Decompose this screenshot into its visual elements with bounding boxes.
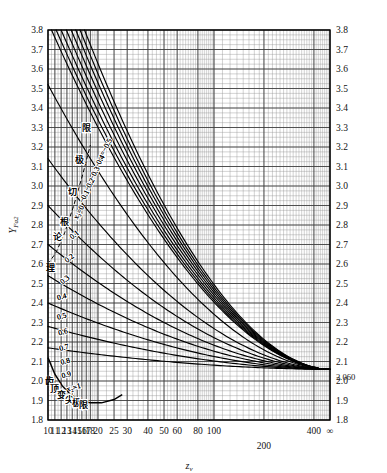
curve-label-x2-14: 0.9	[61, 369, 73, 380]
y-tick-label-left-11: 2.9	[31, 201, 43, 211]
y-tick-label-left-9: 2.7	[31, 240, 43, 250]
y-tick-label-right-6: 2.4	[336, 298, 348, 308]
y-tick-label-left-8: 2.6	[31, 259, 43, 269]
y-tick-label-left-7: 2.5	[31, 279, 43, 289]
y-tick-label-right-19: 3.7	[336, 45, 348, 55]
gear-form-factor-nomogram: x₂=−0.5x₂=−0.5−0.4−0.4−0.3−0.3−0.2−0.2−0…	[0, 0, 387, 473]
y-tick-label-left-17: 3.5	[31, 84, 43, 94]
y-tick-label-right-5: 2.3	[336, 318, 348, 328]
y-tick-label-left-3: 2.1	[31, 357, 43, 367]
y-tick-label-right-11: 2.9	[336, 201, 348, 211]
curve-x2-3	[71, 30, 330, 369]
x-tick-label-15: 80	[193, 426, 203, 436]
y-tick-label-right-9: 2.7	[336, 240, 348, 250]
y-tick-label-left-2: 2.0	[31, 376, 43, 386]
y-tick-label-right-20: 3.8	[336, 25, 348, 35]
y-tick-label-right-14: 3.2	[336, 142, 348, 152]
x-tick-label-18: 400	[307, 426, 322, 436]
y-tick-label-left-1: 1.9	[31, 396, 43, 406]
y-tick-label-left-12: 3.0	[31, 181, 43, 191]
y-tick-label-left-6: 2.4	[31, 298, 43, 308]
y-tick-label-right-4: 2.2	[336, 337, 348, 347]
y-tick-label-left-13: 3.1	[31, 162, 43, 172]
undercut-label-char-2: 根	[60, 216, 69, 227]
y-tick-label-right-7: 2.5	[336, 279, 348, 289]
x-tick-label-14: 60	[172, 426, 182, 436]
x-axis-title: zv	[184, 460, 193, 473]
undercut-label-char-5: 限	[82, 123, 91, 133]
x-tick-label-200: 200	[257, 441, 272, 451]
y-tick-label-right-10: 2.8	[336, 220, 348, 230]
y-tick-label-left-4: 2.2	[31, 337, 43, 347]
y-tick-label-left-16: 3.4	[31, 103, 43, 113]
curve-label-x2-10: 0.5	[56, 311, 68, 322]
y-tick-label-left-10: 2.8	[31, 220, 43, 230]
x-tick-label-9: 20	[93, 426, 103, 436]
chart-svg: x₂=−0.5x₂=−0.5−0.4−0.4−0.3−0.3−0.2−0.2−0…	[0, 0, 387, 473]
x-tick-label-13: 50	[159, 426, 169, 436]
y-tick-label-left-20: 3.8	[31, 25, 43, 35]
x-tick-label-10: 25	[109, 426, 119, 436]
curve-label-x2-13: 0.8	[59, 355, 71, 366]
y-tick-label-left-0: 1.8	[31, 415, 43, 425]
y-tick-label-right-13: 3.1	[336, 162, 348, 172]
y-tick-label-left-19: 3.7	[31, 45, 43, 55]
curve-label-x2-7: 0.2	[63, 252, 76, 265]
grid-layer	[48, 30, 330, 420]
curve-label-x2-12: 0.7	[58, 342, 70, 353]
curve-label-x2-9: 0.4	[56, 291, 68, 302]
tip-limit-label-char-5: 限	[79, 400, 88, 410]
y-tick-label-right-18: 3.6	[336, 64, 348, 74]
y-tick-label-left-14: 3.2	[31, 142, 43, 152]
y-axis-title: YFa2	[7, 216, 20, 233]
undercut-label-char-1: 论	[53, 231, 62, 242]
x-tick-label-16: 100	[207, 426, 222, 436]
y-tick-label-right-15: 3.3	[336, 123, 348, 133]
y-tick-label-left-18: 3.6	[31, 64, 43, 74]
undercut-label-char-3: 切	[68, 187, 77, 197]
undercut-label-char-4: 极	[75, 154, 84, 165]
y-tick-label-right-3: 2.1	[336, 357, 348, 367]
x-tick-label-11: 30	[122, 426, 132, 436]
y-tick-label-left-5: 2.3	[31, 318, 43, 328]
y-tick-label-right-17: 3.5	[336, 84, 348, 94]
x-tick-label-19: ∞	[327, 426, 334, 436]
y-tick-label-right-16: 3.4	[336, 103, 348, 113]
y-tick-label-right-12: 3.0	[336, 181, 348, 191]
y-tick-label-right-1: 1.9	[336, 396, 348, 406]
curve-x2-1	[80, 30, 330, 369]
y-tick-label-right-8: 2.6	[336, 259, 348, 269]
x-tick-label-12: 40	[143, 426, 153, 436]
convergence-value-label: 2.060	[336, 372, 355, 382]
y-tick-label-left-15: 3.3	[31, 123, 43, 133]
y-tick-label-right-0: 1.8	[336, 415, 348, 425]
